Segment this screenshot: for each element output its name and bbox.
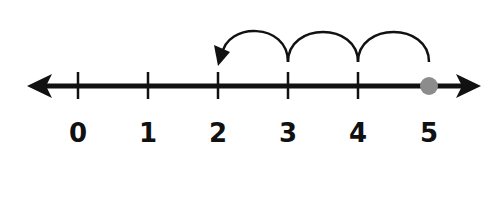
tick-label-0: 0 — [63, 118, 93, 148]
tick-label-1: 1 — [133, 118, 163, 148]
jump-arc-4-to-3 — [288, 32, 358, 62]
tick-label-3: 3 — [273, 118, 303, 148]
tick-label-2: 2 — [203, 118, 233, 148]
jump-arc-3-to-2 — [222, 31, 288, 62]
jump-arc-5-to-4 — [358, 32, 429, 62]
jump-arrowhead-icon — [214, 45, 230, 66]
tick-label-4: 4 — [343, 118, 373, 148]
number-line-diagram — [0, 0, 504, 198]
start-point-dot — [420, 77, 438, 95]
tick-label-5: 5 — [414, 118, 444, 148]
